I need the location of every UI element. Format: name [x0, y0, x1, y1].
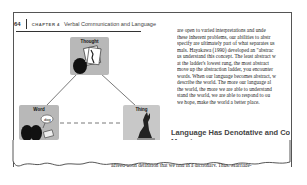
section-heading-line1: Language Has Denotative and Con — [171, 128, 290, 137]
dog-icon — [123, 105, 160, 143]
torn-page-edge — [0, 140, 307, 185]
right-column-text: are open to varied interpretations and u… — [177, 27, 289, 105]
text-line: we hope, make the world a better place. — [177, 99, 289, 106]
text-line: us understand this concept. The least ab… — [177, 53, 289, 60]
thinking-person-icon — [70, 37, 109, 75]
speaking-people-icon: dog — [19, 105, 59, 140]
word-node: Word dog — [19, 105, 59, 140]
thing-node: Thing — [123, 105, 160, 143]
thought-node: Thought — [70, 37, 109, 75]
text-line: move up the abstraction ladder, you enco… — [177, 66, 289, 73]
svg-text:dog: dog — [44, 117, 51, 122]
text-line: specify are ultimately part of what sepa… — [177, 40, 289, 47]
